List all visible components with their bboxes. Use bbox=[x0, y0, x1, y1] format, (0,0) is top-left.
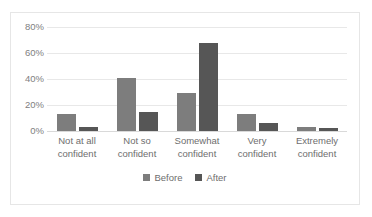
legend-swatch-icon bbox=[195, 174, 202, 181]
bar-group bbox=[107, 27, 167, 131]
legend-label: After bbox=[206, 173, 226, 183]
x-axis-tick-label: Not so confident bbox=[107, 134, 167, 160]
bar-group bbox=[227, 27, 287, 131]
legend-entry[interactable]: Before bbox=[143, 173, 182, 183]
x-axis-tick-label: Extremely confident bbox=[287, 134, 347, 160]
chart-legend: BeforeAfter bbox=[11, 173, 359, 183]
bar-after[interactable] bbox=[319, 128, 338, 131]
bar-before[interactable] bbox=[117, 78, 136, 131]
legend-entry[interactable]: After bbox=[195, 173, 226, 183]
y-axis-tick-label: 20% bbox=[12, 100, 44, 110]
y-axis-tick-label: 0% bbox=[12, 126, 44, 136]
y-axis-tick-label: 60% bbox=[12, 48, 44, 58]
x-axis: Not at all confidentNot so confidentSome… bbox=[47, 134, 347, 160]
legend-swatch-icon bbox=[143, 174, 150, 181]
x-axis-tick-label: Somewhat confident bbox=[167, 134, 227, 160]
bar-after[interactable] bbox=[259, 123, 278, 131]
bar-group bbox=[47, 27, 107, 131]
y-axis: 0%20%40%60%80% bbox=[11, 27, 44, 131]
bar-after[interactable] bbox=[79, 127, 98, 131]
bar-before[interactable] bbox=[297, 127, 316, 131]
bar-group bbox=[287, 27, 347, 131]
bar-before[interactable] bbox=[237, 114, 256, 131]
x-axis-tick-label: Very confident bbox=[227, 134, 287, 160]
legend-label: Before bbox=[154, 173, 182, 183]
y-axis-tick-label: 80% bbox=[12, 22, 44, 32]
chart-container: 0%20%40%60%80% Not at all confidentNot s… bbox=[10, 12, 360, 205]
bar-before[interactable] bbox=[177, 93, 196, 131]
bar-group bbox=[167, 27, 227, 131]
bar-groups bbox=[47, 27, 347, 131]
y-axis-tick-label: 40% bbox=[12, 74, 44, 84]
bar-after[interactable] bbox=[139, 112, 158, 132]
x-axis-tick-label: Not at all confident bbox=[47, 134, 107, 160]
bar-after[interactable] bbox=[199, 43, 218, 131]
x-axis-baseline bbox=[47, 131, 347, 132]
bar-before[interactable] bbox=[57, 114, 76, 131]
